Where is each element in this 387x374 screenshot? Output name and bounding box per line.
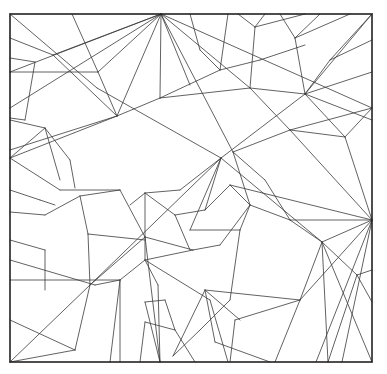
crease-line [250, 205, 290, 220]
crease-line [98, 14, 161, 72]
crease-line [265, 180, 290, 220]
crease-line [53, 55, 117, 116]
crease-line [235, 300, 300, 320]
crease-line [330, 40, 372, 60]
crease-line [300, 220, 372, 300]
crease-line [357, 270, 372, 275]
crease-line [145, 302, 160, 362]
crease-line [305, 14, 372, 94]
crease-line [10, 350, 75, 362]
crease-line [140, 322, 145, 362]
crease-line [40, 200, 55, 205]
crease-line [72, 14, 98, 72]
crease-line [328, 275, 357, 362]
crease-line [145, 250, 193, 260]
crease-line [10, 320, 75, 350]
crease-line [238, 14, 255, 27]
crease-line [10, 116, 117, 150]
crease-line [305, 94, 372, 120]
crease-line [230, 230, 240, 300]
crease-line [200, 300, 230, 330]
crease-line [160, 70, 220, 98]
crease-line [295, 14, 350, 38]
crease-line [120, 190, 145, 237]
crease-line [145, 193, 175, 215]
crease-line [221, 158, 322, 242]
crease-line [175, 210, 205, 215]
crease-line [305, 60, 330, 94]
crease-line [357, 275, 372, 302]
crease-line [345, 108, 372, 137]
crease-line [10, 190, 40, 200]
crease-line [10, 14, 97, 88]
crease-line [45, 128, 70, 160]
crease-line [110, 280, 120, 362]
crease-line [290, 130, 345, 137]
crease-line [322, 242, 372, 362]
crease-line [10, 240, 45, 250]
crease-line [342, 220, 372, 362]
crease-line [45, 128, 60, 180]
crease-line [98, 72, 117, 116]
crease-line [53, 14, 161, 55]
crease-line [290, 130, 372, 220]
crease-line [305, 94, 345, 137]
crease-line [120, 260, 145, 280]
crease-line [205, 290, 300, 300]
crease-line [145, 300, 165, 302]
crease-line [221, 94, 305, 158]
crease-line [88, 234, 145, 240]
crease-line [295, 14, 320, 38]
crease-line [233, 130, 290, 152]
crease-line [230, 320, 235, 362]
crease-line [90, 237, 145, 285]
crease-line [173, 290, 205, 356]
crease-line [280, 14, 295, 38]
crease-line [88, 234, 90, 285]
crease-line [290, 108, 372, 130]
crease-line [145, 322, 175, 330]
crease-line [25, 62, 35, 120]
crease-line [220, 60, 260, 70]
crease-pattern-canvas [0, 0, 387, 374]
crease-line [250, 27, 255, 88]
crease-line [10, 14, 161, 108]
crease-line [165, 300, 175, 330]
crease-line [160, 88, 250, 98]
crease-line [190, 14, 200, 50]
crease-line [160, 14, 161, 98]
crease-line [10, 128, 45, 158]
crease-line [90, 158, 221, 285]
crease-line [10, 120, 45, 128]
crease-line [161, 14, 233, 152]
crease-line [10, 38, 53, 55]
crease-line [80, 190, 120, 196]
crease-line [70, 160, 75, 188]
crease-line [220, 14, 228, 70]
crease-pattern-diagram [0, 0, 387, 374]
crease-line [10, 158, 60, 190]
crease-line [193, 245, 220, 250]
crease-line [10, 260, 95, 285]
crease-line [175, 215, 190, 250]
crease-line [80, 196, 88, 234]
crease-line [10, 212, 45, 215]
crease-line [180, 158, 221, 190]
crease-line [75, 285, 90, 350]
crease-line [300, 242, 322, 300]
crease-line [240, 205, 250, 230]
crease-line [330, 14, 372, 60]
crease-line [145, 260, 210, 300]
crease-line [10, 58, 35, 62]
crease-line [130, 193, 145, 205]
crease-line [10, 285, 90, 362]
crease-line [220, 205, 250, 245]
crease-line [10, 118, 25, 120]
crease-line [145, 237, 160, 362]
crease-line [275, 300, 300, 362]
crease-lines [10, 14, 372, 362]
crease-line [161, 14, 372, 108]
crease-line [250, 88, 305, 94]
crease-line [345, 137, 372, 220]
crease-line [250, 88, 290, 130]
